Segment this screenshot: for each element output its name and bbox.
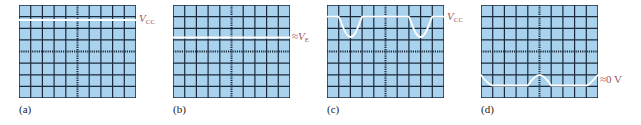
- trace-label-vcc: VCC: [447, 10, 463, 24]
- trace-label-vcc: VCC: [139, 12, 155, 26]
- panel-caption: (c): [327, 103, 339, 115]
- oscilloscope-screen: [327, 5, 444, 98]
- trace-label-zero-volts: ≈0 V: [600, 73, 622, 85]
- oscilloscope-screen: [173, 5, 290, 98]
- panel-caption: (d): [481, 103, 494, 115]
- oscilloscope-screen: [19, 5, 136, 98]
- panel-caption: (b): [173, 103, 186, 115]
- oscilloscope-panel-d: ≈0 V (d): [462, 0, 622, 125]
- oscilloscope-panel-c: VCC (c): [308, 0, 468, 125]
- oscilloscope-screen: [481, 5, 598, 98]
- oscilloscope-panel-a: VCC (a): [0, 0, 160, 125]
- panel-caption: (a): [19, 103, 31, 115]
- trace-label-ve: ≈VE: [292, 30, 309, 44]
- oscilloscope-panel-b: ≈VE (b): [154, 0, 314, 125]
